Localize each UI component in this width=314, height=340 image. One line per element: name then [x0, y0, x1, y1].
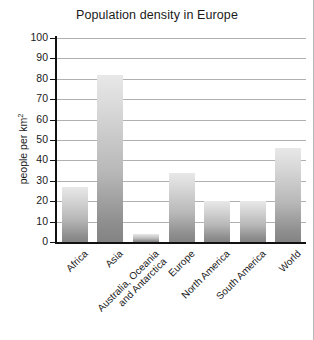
- gridline: [57, 79, 306, 80]
- y-axis-tick-label: 20: [2, 195, 48, 206]
- y-axis-tick-label: 90: [2, 52, 48, 63]
- x-axis-line: [55, 242, 306, 244]
- y-axis-tick-label: 70: [2, 93, 48, 104]
- gridline: [57, 120, 306, 121]
- plot-area: [57, 38, 306, 242]
- y-axis-tick-label: 30: [2, 175, 48, 186]
- bar: [204, 201, 230, 242]
- gridline: [57, 58, 306, 59]
- bar-chart-figure: Population density in Europe people per …: [0, 0, 314, 340]
- bar: [133, 234, 159, 242]
- y-axis-tick-label: 60: [2, 114, 48, 125]
- bar: [62, 187, 88, 242]
- gridline: [57, 38, 306, 39]
- y-axis-tick-label: 100: [2, 32, 48, 43]
- gridline: [57, 99, 306, 100]
- bar: [240, 201, 266, 242]
- y-axis-tick-label: 10: [2, 216, 48, 227]
- y-axis-tick-label: 80: [2, 73, 48, 84]
- y-axis-tick-label: 50: [2, 134, 48, 145]
- gridline: [57, 140, 306, 141]
- y-axis-tick-label: 0: [2, 236, 48, 247]
- y-axis-tick-label: 40: [2, 154, 48, 165]
- bar: [169, 173, 195, 242]
- bar: [97, 75, 123, 242]
- bar: [275, 148, 301, 242]
- gridline: [57, 160, 306, 161]
